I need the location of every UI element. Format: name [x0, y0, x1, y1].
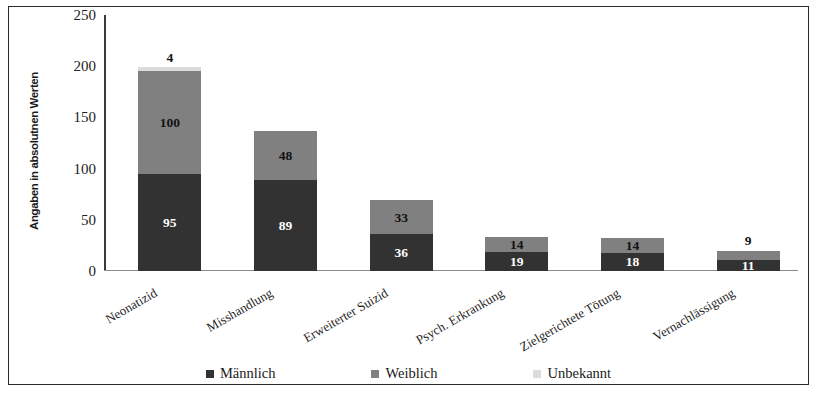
y-tick-label: 150	[52, 109, 96, 126]
bar-group[interactable]: 1814	[601, 238, 664, 271]
bar-segment[interactable]: 36	[370, 234, 433, 271]
legend-label: Männlich	[220, 365, 276, 382]
legend-label: Weiblich	[385, 365, 437, 382]
legend-item-weiblich[interactable]: Weiblich	[371, 365, 437, 382]
legend-swatch-icon	[533, 370, 541, 378]
y-tick-label: 200	[52, 58, 96, 75]
bar-segment[interactable]: 18	[601, 253, 664, 271]
x-axis-label: Psych. Erkrankung	[413, 285, 507, 348]
bar-segment[interactable]: 19	[485, 252, 548, 271]
y-tick-label: 50	[52, 211, 96, 228]
bar-segment[interactable]: 14	[485, 237, 548, 251]
bar-segment[interactable]: 33	[370, 200, 433, 234]
chart-frame: Angaben in absolutnen Werten 05010015020…	[8, 6, 809, 385]
chart-legend: MännlichWeiblichUnbekannt	[17, 365, 800, 382]
y-axis-title-text: Angaben in absolutnen Werten	[28, 72, 40, 230]
bar-segment[interactable]: 14	[601, 238, 664, 252]
bar-group[interactable]: 3633	[370, 200, 433, 271]
bar-segment[interactable]: 48	[254, 131, 317, 180]
y-tick-label: 0	[52, 263, 96, 280]
x-axis-label: Zielgerichtete Tötung	[517, 285, 623, 355]
y-tick-label: 250	[52, 7, 96, 24]
bar-group[interactable]: 119	[717, 251, 780, 271]
bar-segment[interactable]: 100	[138, 71, 201, 173]
bar-series-container: 9510048948363319141814119	[104, 15, 798, 271]
x-axis-label: Vernachlässigung	[650, 285, 737, 345]
legend-label: Unbekannt	[547, 365, 611, 382]
bar-value-label-outside: 9	[717, 234, 780, 248]
plot-area: 050100150200250 951004894836331914181411…	[104, 15, 798, 271]
y-axis-title: Angaben in absolutnen Werten	[23, 41, 45, 261]
bar-segment[interactable]: 4	[138, 67, 201, 71]
bar-group[interactable]: 1914	[485, 237, 548, 271]
bar-segment[interactable]: 89	[254, 180, 317, 271]
legend-item-maennlich[interactable]: Männlich	[206, 365, 276, 382]
bar-group[interactable]: 8948	[254, 131, 317, 271]
bar-value-label-outside: 4	[138, 51, 201, 65]
x-axis-label: Misshandlung	[203, 285, 275, 336]
bar-segment[interactable]: 95	[138, 174, 201, 271]
bar-group[interactable]: 951004	[138, 67, 201, 271]
bar-segment[interactable]: 11	[717, 260, 780, 271]
y-tick-label: 100	[52, 160, 96, 177]
x-axis-label: Erweiterter Suizid	[301, 285, 391, 346]
legend-swatch-icon	[371, 370, 379, 378]
x-axis-label: Neonatizid	[102, 285, 159, 327]
legend-swatch-icon	[206, 370, 214, 378]
bar-segment[interactable]: 9	[717, 251, 780, 260]
legend-item-unbekannt[interactable]: Unbekannt	[533, 365, 611, 382]
